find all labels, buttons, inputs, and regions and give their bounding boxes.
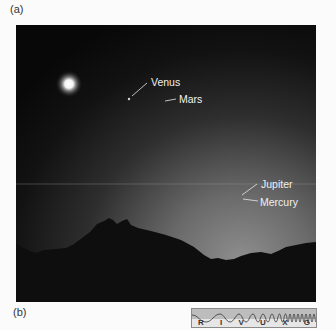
band-u: U (260, 318, 266, 328)
venus-label: Venus (151, 77, 180, 88)
panel-label-a: (a) (10, 3, 23, 15)
band-x: X (282, 318, 287, 328)
moon-glow (55, 70, 83, 98)
band-g: G (304, 318, 310, 328)
band-v: V (239, 318, 244, 328)
jupiter-label: Jupiter (261, 179, 293, 190)
panel-label-b: (b) (13, 306, 26, 318)
sky-photo: Venus Mars Jupiter Mercury (16, 25, 316, 302)
band-r: R (198, 318, 204, 328)
sky-scene (16, 25, 316, 302)
spectrum-bar: R I V U X G (191, 308, 317, 328)
spectrum-band-labels: R I V U X G (192, 318, 316, 328)
venus-dot (128, 98, 130, 100)
band-i: I (220, 318, 222, 328)
mars-label: Mars (179, 94, 202, 105)
mercury-label: Mercury (260, 197, 298, 208)
